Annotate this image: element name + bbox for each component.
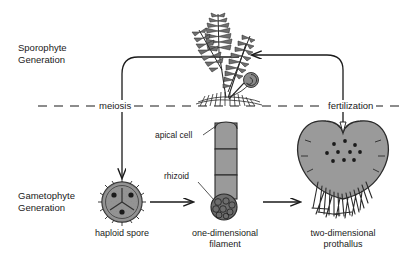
diagram-canvas	[0, 0, 418, 262]
apical-cell-callout: apical cell	[154, 130, 193, 141]
rhizoid-leader-line	[198, 182, 214, 200]
gametophyte-generation-line2: Generation	[18, 202, 75, 214]
two-dimensional-prothallus-illustration	[298, 121, 389, 218]
sporophyte-generation-line2: Generation	[18, 54, 67, 66]
filament-caption-line1: one-dimensional	[179, 228, 271, 239]
meiosis-label: meiosis	[96, 100, 134, 112]
prothallus-caption-line2: prothallus	[297, 239, 389, 250]
rhizoid-cell-mass	[211, 194, 237, 220]
gametophyte-generation-line1: Gametophyte	[18, 190, 75, 202]
filament-caption-line2: filament	[179, 239, 271, 250]
fern-frond-left	[205, 13, 232, 52]
haploid-spore-caption-line1: haploid spore	[72, 228, 172, 239]
haploid-spore-caption: haploid spore	[72, 228, 172, 239]
two-dimensional-prothallus-caption: two-dimensional prothallus	[297, 228, 389, 251]
one-dimensional-filament-caption: one-dimensional filament	[179, 228, 271, 251]
sporophyte-generation-line1: Sporophyte	[18, 42, 67, 54]
prothallus-caption-line1: two-dimensional	[297, 228, 389, 239]
fiddlehead-crozier	[229, 73, 259, 98]
fern-sporophyte-illustration	[192, 13, 262, 106]
fertilization-label: fertilization	[325, 100, 376, 112]
sporophyte-generation-label: Sporophyte Generation	[18, 42, 67, 66]
rhizoid-callout: rhizoid	[163, 171, 190, 182]
fern-life-cycle-figure: Sporophyte Generation Gametophyte Genera…	[0, 0, 418, 262]
apical-cell-leader-line	[203, 126, 216, 135]
one-dimensional-filament-illustration	[211, 122, 237, 220]
haploid-spore-illustration	[98, 178, 146, 226]
gametophyte-generation-label: Gametophyte Generation	[18, 190, 75, 214]
